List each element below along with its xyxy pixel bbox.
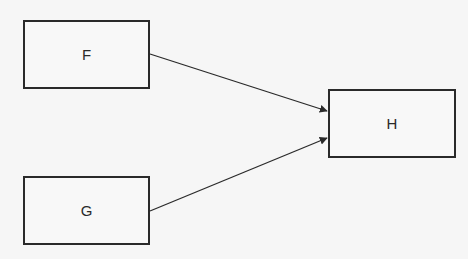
node-g-label: G [81,202,93,219]
edge-g-to-h [150,138,327,211]
node-h: H [328,89,456,158]
node-f-label: F [82,46,91,63]
edge-f-to-h [150,54,327,111]
node-h-label: H [387,115,398,132]
node-g: G [23,176,150,245]
node-f: F [23,20,150,89]
